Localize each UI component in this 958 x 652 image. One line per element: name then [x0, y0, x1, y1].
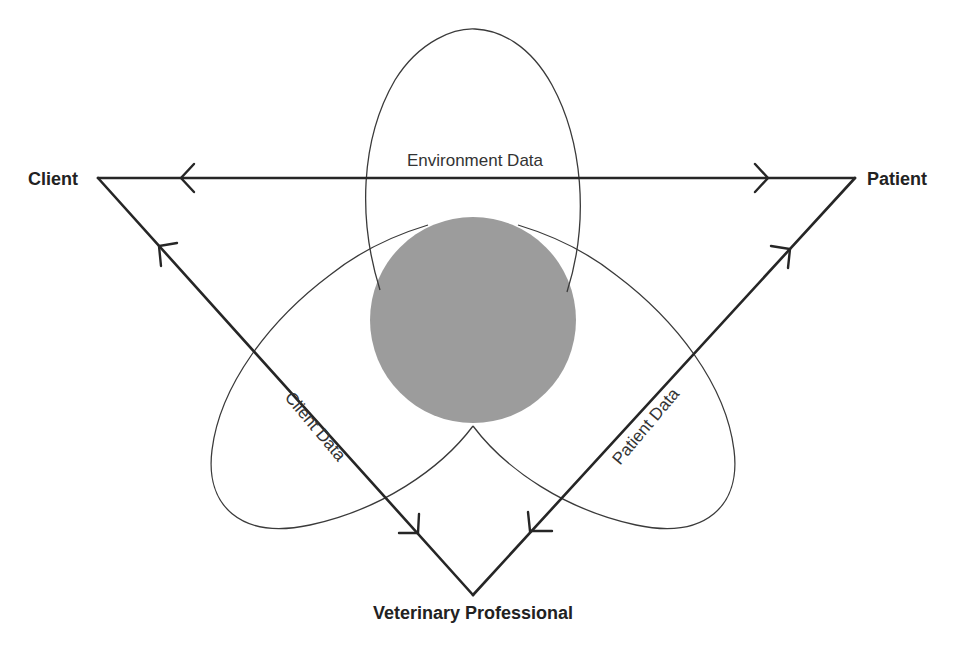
node-label-client: Client	[28, 169, 78, 189]
petal-label-environment-data: Environment Data	[407, 151, 544, 170]
petal-label-patient-data: Patient Data	[608, 384, 683, 468]
triad-diagram: Client Patient Veterinary Professional E…	[0, 0, 958, 652]
shared-data-core	[370, 217, 576, 423]
petal-label-client-data: Client Data	[281, 388, 350, 465]
node-label-veterinary-professional: Veterinary Professional	[373, 603, 573, 623]
node-label-patient: Patient	[867, 169, 927, 189]
